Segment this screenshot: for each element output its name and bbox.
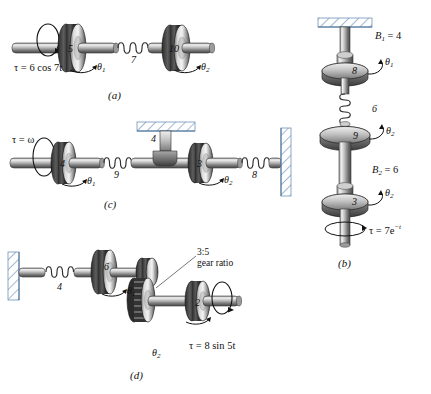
panel-b-inertia2-label: 9 (353, 131, 358, 141)
panel-c-spring2-label: 8 (252, 170, 257, 180)
panel-b-damper2-label: B2 = 6 (372, 165, 398, 177)
panel-c-theta2-label: θ2 (224, 175, 232, 187)
panel-b-inertia3-label: 3 (352, 197, 357, 207)
panel-a-theta1-label: θ1 (97, 62, 105, 74)
panel-c-id: (c) (104, 199, 116, 210)
panel-d-theta1-label: θ1 (127, 286, 135, 298)
shaft-segment (69, 158, 102, 168)
wall-hatch (281, 128, 291, 196)
panel-c-inertia1-label: 4 (60, 159, 65, 169)
panel-d-inertia2-label: 2 (195, 298, 200, 308)
panel-c-spring1-label: 9 (114, 170, 119, 180)
panel-b-inertia1-label: 8 (352, 66, 357, 76)
ground-hatch (137, 122, 195, 131)
panel-b-id: (b) (338, 258, 351, 269)
panel-d-spring-label: 4 (57, 282, 62, 292)
panel-b-graphic (318, 18, 384, 247)
torsional-spring-7 (118, 43, 148, 54)
shaft-segment (206, 158, 240, 168)
panel-d-inertia1-label: 6 (104, 262, 109, 272)
panel-a-inertia1-label: 5 (68, 44, 73, 54)
panel-d-id: (d) (130, 370, 143, 381)
panel-d-gear-ratio-label: 3:5 gear ratio (197, 247, 233, 268)
shaft-segment (203, 296, 239, 306)
panel-a-spring-label: 7 (131, 55, 136, 65)
panel-b-spring-label: 6 (372, 104, 377, 114)
panel-c-theta1-label: θ1 (87, 176, 95, 188)
panel-a-id: (a) (108, 90, 121, 101)
rotational-systems-figure (0, 0, 431, 394)
torsional-spring-6 (340, 94, 351, 124)
panel-a-inertia2-label: 10 (169, 44, 179, 54)
torsional-spring-9 (104, 158, 132, 169)
panel-d-torque-label: τ = 8 sin 5t (189, 341, 235, 352)
shaft-segment (182, 43, 212, 53)
damper-4 (153, 131, 177, 166)
ground-hatch (318, 18, 372, 27)
panel-a-theta2-label: θ2 (201, 62, 209, 74)
panel-d-theta2-label: θ2 (152, 348, 160, 360)
torsional-spring-4 (46, 267, 74, 278)
wall-hatch (8, 252, 19, 300)
panel-c-inertia2-label: 3 (197, 159, 202, 169)
panel-b-theta1-label: θ1 (385, 57, 393, 69)
shaft-segment (78, 43, 116, 53)
shaft-segment (19, 268, 45, 277)
shaft-segment (340, 209, 350, 245)
panel-c-damper-label: 4 (151, 134, 156, 144)
torsional-spring-8 (242, 158, 270, 169)
panel-c-torque-label: τ = ω (12, 135, 34, 146)
panel-b-theta2-label: θ2 (386, 126, 394, 138)
panel-b-theta2b-label: θ2 (385, 188, 393, 200)
panel-b-damper1-label: B1 = 4 (375, 31, 401, 43)
panel-a-torque-label: τ = 6 cos 7t (14, 63, 62, 74)
panel-b-torque-label: τ = 7e−t (369, 224, 401, 237)
